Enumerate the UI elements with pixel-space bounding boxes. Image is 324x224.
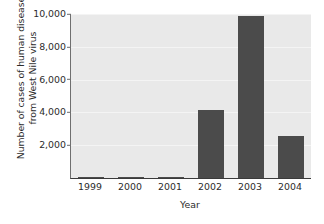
- bar-slot-2001: [151, 14, 191, 178]
- bar-2001[interactable]: [158, 177, 184, 178]
- x-axis-tick-labels: 199920002001200220032004: [70, 182, 310, 192]
- bar-slot-2003: [231, 14, 271, 178]
- x-axis-title: Year: [70, 200, 310, 210]
- bar-2004[interactable]: [278, 136, 304, 178]
- x-tick-label-2003: 2003: [230, 182, 270, 192]
- x-tick-label-2000: 2000: [110, 182, 150, 192]
- x-tick-label-2001: 2001: [150, 182, 190, 192]
- bar-1999[interactable]: [78, 177, 104, 178]
- bar-slot-2004: [271, 14, 311, 178]
- bars-layer: [71, 14, 311, 178]
- bar-chart-figure: Number of cases of human disease from We…: [0, 0, 324, 224]
- y-axis-title-line-1: Number of cases of human disease: [15, 0, 27, 163]
- bar-2002[interactable]: [198, 110, 224, 178]
- y-tick-label-10000: 10,000: [26, 9, 66, 18]
- bar-slot-1999: [71, 14, 111, 178]
- y-tick-label-8000: 8,000: [26, 42, 66, 51]
- bar-slot-2002: [191, 14, 231, 178]
- x-tick-label-2002: 2002: [190, 182, 230, 192]
- bar-2003[interactable]: [238, 16, 264, 178]
- y-tick-label-4000: 4,000: [26, 108, 66, 117]
- x-tick-label-1999: 1999: [70, 182, 110, 192]
- bar-2000[interactable]: [118, 177, 144, 178]
- y-tick-label-2000: 2,000: [26, 140, 66, 149]
- y-tick-label-6000: 6,000: [26, 75, 66, 84]
- bar-slot-2000: [111, 14, 151, 178]
- x-tick-label-2004: 2004: [270, 182, 310, 192]
- plot-area: [70, 14, 311, 179]
- y-axis-tick-labels: 10,0008,0006,0004,0002,000: [26, 14, 66, 178]
